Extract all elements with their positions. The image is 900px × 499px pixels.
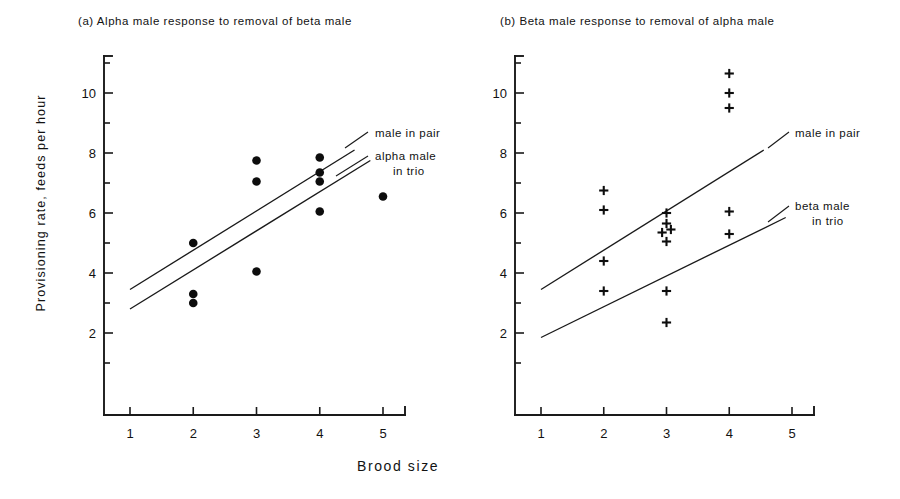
- data-point-cross: [725, 69, 734, 78]
- data-point-cross: [599, 256, 608, 265]
- data-point-dot: [315, 168, 324, 177]
- data-point-dot: [252, 267, 261, 276]
- data-point-cross: [725, 229, 734, 238]
- trend-line: [541, 150, 764, 290]
- y-tick-label: 8: [89, 146, 96, 161]
- panel-a-plot: 24681012345male in pairalpha malein trio: [82, 56, 441, 441]
- annotation-male-in-pair: male in pair: [375, 127, 440, 139]
- y-tick-label: 6: [500, 206, 507, 221]
- y-tick-label: 8: [500, 146, 507, 161]
- trend-line: [541, 218, 786, 338]
- panel-b-plot: 24681012345male in pairbeta malein trio: [493, 56, 861, 441]
- data-point-dot: [379, 192, 388, 201]
- annotation-leader-lower: [768, 206, 789, 222]
- annotation-leader-upper: [345, 132, 368, 148]
- y-tick-label: 6: [89, 206, 96, 221]
- data-point-dot: [315, 177, 324, 186]
- data-point-cross: [658, 228, 667, 237]
- x-tick-label: 1: [126, 426, 133, 441]
- data-point-dot: [252, 156, 261, 165]
- y-tick-label: 4: [500, 266, 507, 281]
- x-tick-label: 1: [537, 426, 544, 441]
- annotation-leader-upper: [768, 132, 789, 148]
- data-point-dot: [315, 153, 324, 162]
- data-point-cross: [662, 237, 671, 246]
- data-point-cross: [662, 286, 671, 295]
- y-tick-label: 10: [82, 86, 96, 101]
- x-tick-label: 2: [190, 426, 197, 441]
- x-tick-label: 4: [316, 426, 323, 441]
- data-point-cross: [725, 103, 734, 112]
- data-point-dot: [315, 207, 324, 216]
- data-point-cross: [666, 225, 675, 234]
- x-tick-label: 5: [788, 426, 795, 441]
- data-point-cross: [599, 186, 608, 195]
- data-point-dot: [189, 239, 198, 248]
- figure-container: (a) Alpha male response to removal of be…: [0, 0, 900, 499]
- x-tick-label: 5: [379, 426, 386, 441]
- data-point-dot: [189, 290, 198, 299]
- annotation-trio-line1: alpha male: [375, 150, 436, 162]
- annotation-trio-line2: in trio: [812, 215, 844, 227]
- data-point-cross: [599, 205, 608, 214]
- y-tick-label: 2: [89, 326, 96, 341]
- data-point-cross: [725, 207, 734, 216]
- annotation-male-in-pair: male in pair: [795, 127, 860, 139]
- plot-canvas: 24681012345male in pairalpha malein trio…: [0, 0, 900, 499]
- y-tick-label: 10: [493, 86, 507, 101]
- y-tick-label: 2: [500, 326, 507, 341]
- data-point-dot: [189, 299, 198, 308]
- y-tick-label: 4: [89, 266, 96, 281]
- data-point-cross: [662, 318, 671, 327]
- x-tick-label: 3: [253, 426, 260, 441]
- data-point-cross: [725, 88, 734, 97]
- data-point-cross: [662, 219, 671, 228]
- annotation-trio-line1: beta male: [795, 200, 850, 212]
- x-tick-label: 3: [663, 426, 670, 441]
- data-point-dot: [252, 177, 261, 186]
- annotation-trio-line2: in trio: [393, 165, 425, 177]
- trend-line: [130, 161, 370, 310]
- x-tick-label: 4: [726, 426, 733, 441]
- data-point-cross: [599, 286, 608, 295]
- x-tick-label: 2: [600, 426, 607, 441]
- data-point-cross: [662, 208, 671, 217]
